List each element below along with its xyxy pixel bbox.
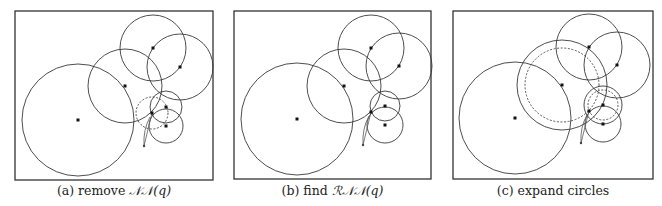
panel-c: (c) expand circles [0,0,662,206]
p-small-upper [602,104,605,107]
p-mid [561,84,564,87]
query-point-q [580,142,582,144]
panel-c-caption: (c) expand circles [453,183,653,198]
panel-frame [453,11,653,179]
p-nn [588,110,591,113]
panel-c-diagram [0,0,662,206]
caption-text: (c) expand circles [497,183,609,198]
p-small-lower [602,123,605,126]
p-top [588,46,591,49]
p-big [514,117,517,120]
p-right [616,64,619,67]
